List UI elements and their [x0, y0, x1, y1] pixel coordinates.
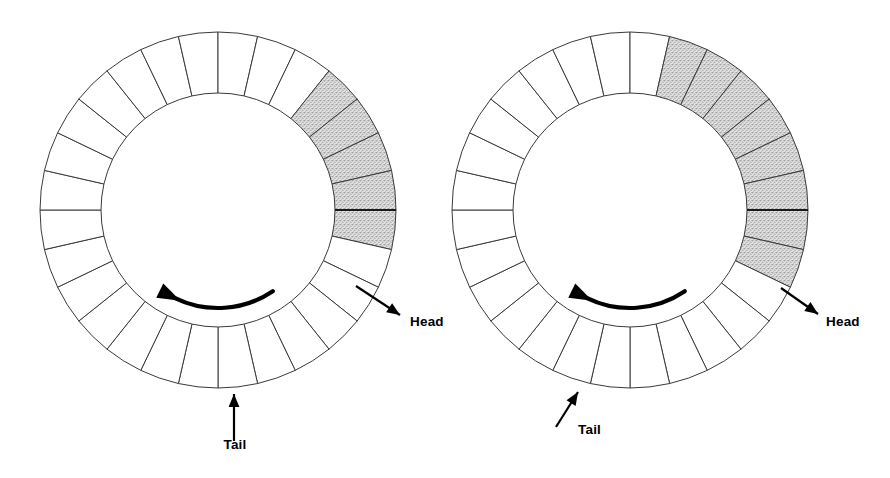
left-tail-label: Tail	[223, 437, 246, 452]
right-tail-label: Tail	[578, 422, 601, 437]
right-head-label: Head	[826, 314, 860, 329]
ring-diagram-figure: Head Tail Head Tail	[0, 0, 890, 478]
left-head-label: Head	[410, 314, 444, 329]
